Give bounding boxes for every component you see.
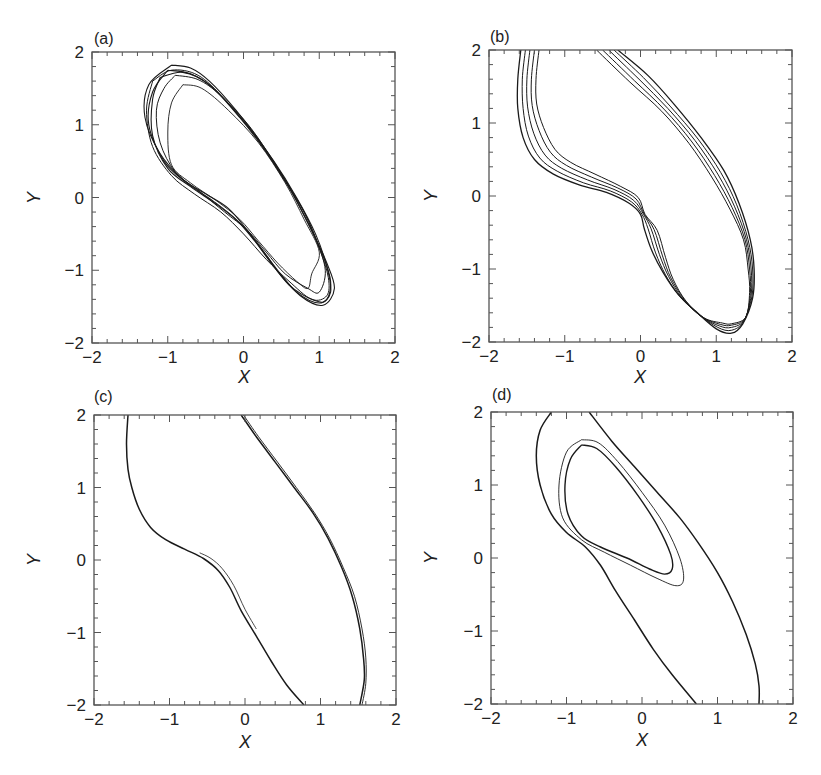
x-tick-label: 2 xyxy=(787,347,796,366)
y-tick-label: 0 xyxy=(472,187,481,206)
y-axis-label: Y xyxy=(24,552,44,566)
y-tick-label: −2 xyxy=(65,334,84,353)
trajectory-curve xyxy=(147,70,330,300)
trajectory-curve xyxy=(565,445,673,574)
panel-label: (c) xyxy=(94,388,113,405)
x-tick-label: 0 xyxy=(636,347,645,366)
y-tick-label: −1 xyxy=(464,622,483,641)
y-tick-label: 1 xyxy=(472,114,481,133)
y-tick-label: 2 xyxy=(472,41,481,60)
trajectory-curve xyxy=(148,70,331,303)
y-tick-label: −1 xyxy=(67,624,86,643)
figure: (a) X Y −2−1012−2−1012 (b) X Y −2−1012−2… xyxy=(0,0,821,775)
plot-frame xyxy=(94,415,396,705)
x-axis-label: X xyxy=(635,730,649,750)
x-tick-label: 1 xyxy=(713,709,722,728)
x-tick-label: 0 xyxy=(239,348,248,367)
x-axis-label: X xyxy=(633,367,647,387)
x-tick-label: 1 xyxy=(315,348,324,367)
plot-area xyxy=(517,50,754,333)
x-tick-label: −1 xyxy=(555,347,574,366)
plot-area xyxy=(144,65,334,305)
trajectory-curve xyxy=(517,50,754,333)
y-tick-label: −2 xyxy=(464,695,483,714)
trajectory-curve xyxy=(151,72,334,305)
x-axis-label: X xyxy=(237,367,251,387)
x-tick-label: 2 xyxy=(788,709,797,728)
panel-b: (b) X Y −2−1012−2−1012 xyxy=(421,28,797,387)
y-axis-label: Y xyxy=(421,550,441,564)
axis-ticks xyxy=(489,50,792,342)
plot-frame xyxy=(92,52,395,343)
trajectory-curve xyxy=(536,50,750,324)
y-tick-label: −2 xyxy=(67,696,86,715)
y-tick-label: 0 xyxy=(474,549,483,568)
x-tick-label: 0 xyxy=(637,709,646,728)
x-tick-label: 2 xyxy=(391,710,400,729)
trajectory-curve xyxy=(527,50,752,328)
plot-area xyxy=(127,415,367,705)
y-axis-label: Y xyxy=(24,190,44,204)
panel-label: (d) xyxy=(492,386,512,403)
axis-ticks xyxy=(92,52,395,343)
x-tick-label: −1 xyxy=(557,709,576,728)
plot-frame xyxy=(489,50,792,342)
panel-c: (c) X Y −2−1012−2−1012 xyxy=(24,388,401,752)
x-tick-label: 1 xyxy=(316,710,325,729)
trajectory-curve xyxy=(559,440,684,586)
trajectory-curve xyxy=(589,412,759,704)
x-tick-label: −2 xyxy=(479,347,498,366)
y-tick-label: 2 xyxy=(77,406,86,425)
y-tick-label: −1 xyxy=(65,261,84,280)
trajectory-curve xyxy=(200,553,257,629)
trajectory-curve xyxy=(241,415,364,705)
trajectory-curve xyxy=(522,50,753,331)
panel-label: (a) xyxy=(94,30,114,47)
x-axis-label: X xyxy=(238,732,252,752)
y-tick-label: 0 xyxy=(77,551,86,570)
y-tick-label: −1 xyxy=(462,260,481,279)
x-tick-label: −2 xyxy=(82,348,101,367)
y-tick-label: −2 xyxy=(462,333,481,352)
panel-label: (b) xyxy=(490,28,510,45)
x-tick-label: 0 xyxy=(240,710,249,729)
y-tick-label: 1 xyxy=(474,476,483,495)
x-tick-label: −1 xyxy=(158,348,177,367)
y-tick-label: 2 xyxy=(474,403,483,422)
panel-d: (d) X Y −2−1012−2−1012 xyxy=(421,386,798,750)
y-axis-label: Y xyxy=(421,188,441,202)
x-tick-label: −1 xyxy=(160,710,179,729)
x-tick-label: −2 xyxy=(481,709,500,728)
axis-ticks xyxy=(94,415,396,705)
x-tick-label: 1 xyxy=(712,347,721,366)
y-tick-label: 1 xyxy=(77,479,86,498)
y-tick-label: 1 xyxy=(75,116,84,135)
trajectory-curve xyxy=(127,415,304,705)
trajectory-curve xyxy=(244,415,367,705)
x-tick-label: −2 xyxy=(84,710,103,729)
panel-a: (a) X Y −2−1012−2−1012 xyxy=(24,30,400,387)
x-tick-label: 2 xyxy=(390,348,399,367)
plot-area xyxy=(536,412,759,704)
y-tick-label: 0 xyxy=(75,189,84,208)
y-tick-label: 2 xyxy=(75,43,84,62)
